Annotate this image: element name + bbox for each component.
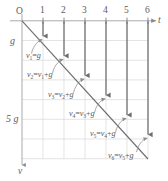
v-axis-label: v	[18, 167, 22, 177]
equation-3: v3=v2+g	[48, 91, 74, 99]
leader-arc-3	[74, 79, 85, 93]
t-tick-label-5: 5	[124, 6, 129, 16]
leader-arc-2	[53, 59, 64, 73]
eq1-rhs-g: g	[37, 51, 41, 60]
eq4-rhs-g: g	[91, 109, 95, 118]
eq6-lhs-sub: 6	[112, 155, 115, 161]
t-tick-label-2: 2	[61, 6, 66, 16]
eq4-lhs-var: v	[69, 109, 73, 118]
t-tick-label-3: 3	[82, 6, 87, 16]
equation-1: v1=g	[26, 52, 41, 60]
eq3-rhs-sub: 2	[62, 94, 65, 100]
eq2-lhs-var: v	[27, 70, 31, 79]
eq5-lhs-var: v	[90, 129, 94, 138]
eq4-lhs-sub: 4	[73, 113, 76, 119]
drop-arrows	[43, 22, 148, 135]
velocity-time-graph: O 1 2 3 4 5 6 t g 5 g v v1=g v2=v1+g v3=…	[0, 0, 168, 181]
eq3-rhs-g: g	[70, 90, 74, 99]
eq4-rhs-sub: 3	[83, 113, 86, 119]
eq6-rhs-g: g	[130, 151, 134, 160]
equation-6: v6=v5+g	[108, 152, 134, 160]
eq2-lhs-sub: 2	[31, 74, 34, 80]
graph-canvas	[0, 0, 168, 181]
leader-arc-6	[137, 138, 148, 152]
t-tick-label-4: 4	[103, 6, 108, 16]
eq6-lhs-var: v	[108, 151, 112, 160]
eq3-lhs-var: v	[48, 90, 52, 99]
equation-4: v4=v3+g	[69, 110, 95, 118]
t-axis-label: t	[158, 16, 161, 26]
eq5-lhs-sub: 5	[94, 133, 97, 139]
y-axis-label-g: g	[10, 36, 15, 46]
eq2-rhs-g: g	[49, 70, 53, 79]
eq2-rhs-sub: 1	[41, 74, 44, 80]
eq6-rhs-sub: 5	[122, 155, 125, 161]
t-tick-label-1: 1	[40, 6, 45, 16]
eq1-lhs-var: v	[26, 51, 30, 60]
equation-5: v5=v4+g	[90, 130, 116, 138]
eq5-rhs-g: g	[112, 129, 116, 138]
equation-2: v2=v1+g	[27, 71, 53, 79]
origin-label: O	[16, 7, 23, 17]
eq3-lhs-sub: 3	[52, 94, 55, 100]
eq5-rhs-sub: 4	[104, 133, 107, 139]
y-axis-label-5g: 5 g	[6, 114, 19, 124]
eq1-lhs-sub: 1	[30, 55, 33, 61]
t-tick-label-6: 6	[145, 6, 150, 16]
